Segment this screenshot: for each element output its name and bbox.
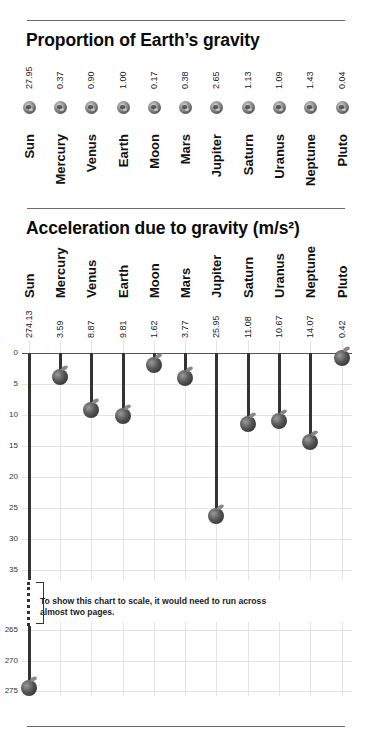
body-name-label: Moon <box>147 263 162 298</box>
body-name-label: Mercury <box>53 134 68 185</box>
body-name-label: Sun <box>22 273 37 298</box>
y-tick-label: 30 <box>2 534 18 543</box>
body-name-label: Jupiter <box>209 134 224 177</box>
gridline-vertical <box>154 340 155 580</box>
gridline-horizontal <box>22 661 352 662</box>
gridline-vertical <box>216 622 217 696</box>
scale-note: To show this chart to scale, it would ne… <box>40 596 280 618</box>
gridline-horizontal <box>22 415 352 416</box>
gravity-bar <box>247 353 250 416</box>
earth-globe-icon <box>117 101 130 114</box>
body-name-label: Pluto <box>335 266 350 299</box>
apple-icon <box>271 413 287 429</box>
earth-globe-icon <box>23 101 36 114</box>
acceleration-value: 3.77 <box>180 320 190 338</box>
body-name-label: Saturn <box>241 257 256 298</box>
proportion-value: 27.95 <box>24 66 34 89</box>
acceleration-value: 10.67 <box>274 315 284 338</box>
body-name-label: Mercury <box>53 247 68 298</box>
y-tick-label: 5 <box>2 379 18 388</box>
earth-globe-icon <box>210 101 223 114</box>
gridline-horizontal <box>22 477 352 478</box>
gravity-bar <box>215 353 218 508</box>
body-name-label: Saturn <box>241 134 256 175</box>
body-name-label: Neptune <box>303 134 318 186</box>
earth-globe-icon <box>304 101 317 114</box>
gridline-horizontal <box>22 570 352 571</box>
proportion-value: 0.04 <box>337 71 347 89</box>
gridline-horizontal <box>22 539 352 540</box>
gravity-bar <box>28 626 31 680</box>
proportion-value: 1.43 <box>305 71 315 89</box>
body-name-label: Venus <box>84 134 99 172</box>
gravity-bar <box>309 353 312 434</box>
proportion-value: 0.90 <box>86 71 96 89</box>
body-name-label: Mars <box>178 134 193 164</box>
gridline-vertical <box>342 622 343 696</box>
apple-icon <box>115 408 131 424</box>
top-rule <box>27 20 345 21</box>
apple-icon <box>146 357 162 373</box>
acceleration-value: 3.59 <box>55 320 65 338</box>
body-name-label: Venus <box>84 260 99 298</box>
acceleration-value: 9.81 <box>118 320 128 338</box>
proportion-value: 0.17 <box>149 71 159 89</box>
apple-icon <box>52 369 68 385</box>
gravity-bar <box>122 353 125 408</box>
acceleration-value: 25.95 <box>211 315 221 338</box>
body-name-label: Uranus <box>272 253 287 298</box>
gridline-vertical <box>91 622 92 696</box>
body-name-label: Pluto <box>335 134 350 167</box>
zero-axis-line <box>22 353 352 354</box>
body-name-label: Earth <box>116 265 131 298</box>
apple-icon <box>302 434 318 450</box>
apple-icon <box>334 350 350 366</box>
y-tick-label: 35 <box>2 565 18 574</box>
gridline-vertical <box>60 622 61 696</box>
gridline-vertical <box>248 622 249 696</box>
proportion-value: 1.00 <box>118 71 128 89</box>
middle-rule <box>27 208 345 209</box>
apple-icon <box>83 402 99 418</box>
gridline-vertical <box>154 622 155 696</box>
earth-globe-icon <box>54 101 67 114</box>
earth-globe-icon <box>179 101 192 114</box>
apple-icon <box>21 680 37 696</box>
body-name-label: Earth <box>116 134 131 167</box>
gridline-vertical <box>123 622 124 696</box>
section1-title: Proportion of Earth’s gravity <box>26 30 260 51</box>
earth-globe-icon <box>85 101 98 114</box>
y-tick-label: 10 <box>2 410 18 419</box>
body-name-label: Jupiter <box>209 255 224 298</box>
y-tick-label: 270 <box>2 656 18 665</box>
gridline-vertical <box>279 622 280 696</box>
body-name-label: Sun <box>22 134 37 159</box>
y-tick-label: 25 <box>2 503 18 512</box>
proportion-value: 0.38 <box>180 71 190 89</box>
acceleration-value: 8.87 <box>86 320 96 338</box>
proportion-value: 1.09 <box>274 71 284 89</box>
gridline-vertical <box>310 622 311 696</box>
gridline-horizontal <box>22 691 352 692</box>
gridline-vertical <box>185 622 186 696</box>
y-tick-label: 20 <box>2 472 18 481</box>
y-tick-label: 15 <box>2 441 18 450</box>
y-tick-label: 275 <box>2 686 18 695</box>
proportion-value: 1.13 <box>243 71 253 89</box>
gridline-horizontal <box>22 508 352 509</box>
apple-leaf-icon <box>342 345 350 352</box>
acceleration-value: 11.08 <box>243 316 253 338</box>
body-name-label: Moon <box>147 134 162 169</box>
gravity-bar <box>90 353 93 402</box>
earth-globe-icon <box>273 101 286 114</box>
proportion-value: 2.65 <box>211 71 221 89</box>
gravity-bar <box>278 353 281 413</box>
body-name-label: Mars <box>178 268 193 298</box>
earth-globe-icon <box>242 101 255 114</box>
apple-icon <box>208 508 224 524</box>
gridline-vertical <box>342 340 343 580</box>
earth-globe-icon <box>148 101 161 114</box>
body-name-label: Neptune <box>303 246 318 298</box>
earth-globe-icon <box>336 101 349 114</box>
gridline-horizontal <box>22 630 352 631</box>
